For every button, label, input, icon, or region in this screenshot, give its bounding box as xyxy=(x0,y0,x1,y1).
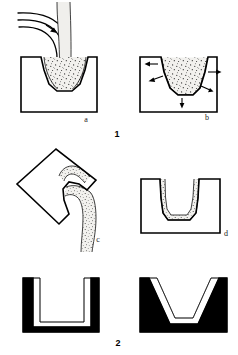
panel-a: a xyxy=(18,2,97,124)
pour-direction-arrow-icon xyxy=(46,25,57,33)
pouring-stream xyxy=(57,2,71,58)
figure-number-1: 1 xyxy=(114,129,119,139)
panel-c: c xyxy=(17,149,100,252)
panel-label-c: c xyxy=(96,235,100,244)
panel-label-a: a xyxy=(84,115,88,124)
section-u-shape xyxy=(23,278,99,332)
figure-canvas: a xyxy=(0,0,238,355)
figure-number-2: 2 xyxy=(115,338,120,348)
panel-label-b: b xyxy=(205,113,209,122)
draining-stream xyxy=(65,186,96,252)
section-v-shape xyxy=(140,278,227,332)
diagram-svg: a xyxy=(0,0,238,355)
solidified-shell-lining xyxy=(160,179,199,220)
panel-b: b xyxy=(140,57,222,122)
panel-d: d xyxy=(141,179,228,238)
panel-label-d: d xyxy=(224,229,228,238)
